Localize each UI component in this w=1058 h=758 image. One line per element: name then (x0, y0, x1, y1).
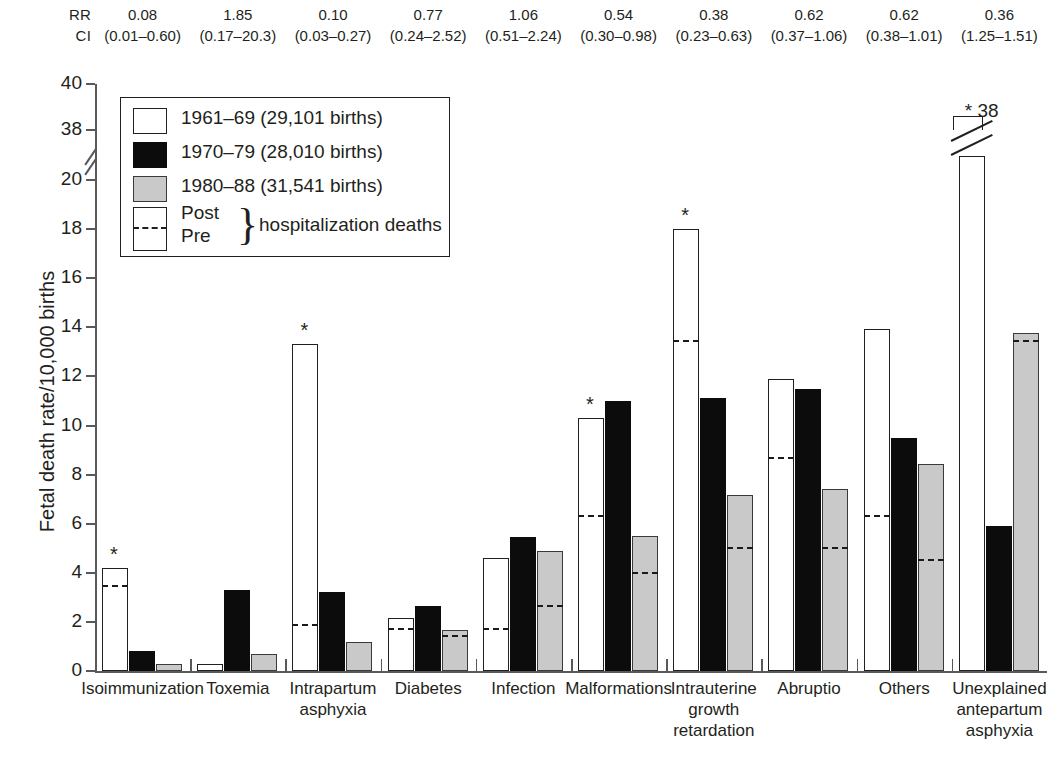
y-axis-line (95, 84, 97, 672)
y-tick-20 (86, 179, 95, 181)
group-separator-1 (190, 659, 192, 673)
bar-intrauterine-growth-retardation-s2 (700, 398, 726, 671)
significance-marker-6: * (681, 205, 689, 225)
bar-malformations-s3 (632, 536, 658, 671)
rr-value-9: 0.36 (939, 6, 1058, 23)
y-tick-4 (86, 572, 95, 574)
bar-toxemia-s1 (197, 664, 223, 671)
x-label-unexplained-antepartum-asphyxia: Unexplainedantepartumasphyxia (924, 678, 1058, 741)
legend-label-1961-69: 1961–69 (29,101 births) (181, 107, 383, 129)
bar-intrapartum-asphyxia-s2 (319, 592, 345, 671)
pre-hospitalization-line-6-s1 (673, 340, 699, 342)
pre-hospitalization-line-8-s3 (918, 559, 944, 561)
legend-label-post: Post (181, 202, 219, 224)
legend-dashed-divider (133, 227, 167, 229)
pre-hospitalization-line-2-s1 (292, 624, 318, 626)
legend-swatch-pre-post (133, 207, 167, 251)
legend-label-pre: Pre (181, 225, 211, 247)
y-tick-18 (86, 228, 95, 230)
y-tick-12 (86, 375, 95, 377)
legend-brace-glyph: } (237, 203, 258, 247)
bar-infection-s3 (537, 551, 563, 671)
bar-toxemia-s3 (251, 654, 277, 671)
legend-box: 1961–69 (29,101 births) 1970–79 (28,010 … (120, 97, 450, 257)
bar-infection-s1 (483, 558, 509, 671)
y-tick-6 (86, 523, 95, 525)
pre-hospitalization-line-7-s3 (822, 547, 848, 549)
bar-isoimmunization-s2 (129, 651, 155, 671)
pre-hospitalization-line-3-s3 (442, 635, 468, 637)
group-separator-9 (952, 659, 954, 673)
pre-hospitalization-line-6-s3 (727, 547, 753, 549)
y-tick-2 (86, 621, 95, 623)
pre-hospitalization-line-9-s3 (1013, 340, 1039, 342)
pre-hospitalization-line-7-s1 (768, 457, 794, 459)
group-separator-8 (857, 659, 859, 673)
group-separator-7 (761, 659, 763, 673)
bar-intrauterine-growth-retardation-s3 (727, 495, 753, 671)
bar-others-s3 (918, 464, 944, 671)
legend-swatch-white (133, 108, 167, 134)
ci-value-9: (1.25–1.51) (939, 27, 1058, 44)
bar-unexplained-antepartum-asphyxia-s1 (959, 156, 985, 671)
ci-row: CI (0.01–0.60)(0.17–20.3)(0.03–0.27)(0.2… (0, 27, 1058, 45)
bar-abruptio-s1 (768, 379, 794, 671)
bar-malformations-s2 (605, 401, 631, 671)
y-tick-38 (86, 129, 95, 131)
bar-toxemia-s2 (224, 590, 250, 671)
bar-unexplained-antepartum-asphyxia-s2 (986, 526, 1012, 671)
bar-break-zigzag-icon (951, 134, 997, 168)
group-separator-6 (666, 659, 668, 673)
legend-swatch-black (133, 142, 167, 168)
group-separator-3 (381, 659, 383, 673)
pre-hospitalization-line-5-s3 (632, 572, 658, 574)
bar-abruptio-s3 (822, 489, 848, 671)
y-tick-14 (86, 326, 95, 328)
bar-unexplained-antepartum-asphyxia-s3 (1013, 333, 1039, 671)
group-separator-2 (285, 659, 287, 673)
y-tick-10 (86, 425, 95, 427)
bar-abruptio-s2 (795, 389, 821, 671)
bar-malformations-s1 (578, 418, 604, 671)
y-tick-8 (86, 474, 95, 476)
pre-hospitalization-line-4-s1 (483, 628, 509, 630)
y-tick-16 (86, 277, 95, 279)
y-tick-label-40: 40 (36, 72, 82, 94)
pre-hospitalization-line-8-s1 (864, 515, 890, 517)
bar-diabetes-s1 (388, 618, 414, 671)
legend-label-hospitalization-deaths: hospitalization deaths (259, 214, 442, 236)
group-separator-5 (571, 659, 573, 673)
significance-marker-5: * (586, 394, 594, 414)
y-axis-title: Fetal death rate/10,000 births (36, 167, 59, 637)
bar-others-s1 (864, 329, 890, 671)
bar-isoimmunization-s1 (102, 568, 128, 671)
pre-hospitalization-line-0-s1 (102, 585, 128, 587)
bar-isoimmunization-s3 (156, 664, 182, 671)
y-tick-label-38: 38 (36, 118, 82, 140)
rr-row: RR 0.081.850.100.771.060.540.380.620.620… (0, 6, 1058, 24)
pre-hospitalization-line-3-s1 (388, 628, 414, 630)
bar-break-cap (953, 116, 983, 130)
bar-infection-s2 (510, 537, 536, 671)
legend-label-1980-88: 1980–88 (31,541 births) (181, 175, 383, 197)
bar-others-s2 (891, 438, 917, 671)
legend-swatch-gray (133, 176, 167, 202)
bar-diabetes-s2 (415, 606, 441, 671)
pre-hospitalization-line-4-s3 (537, 605, 563, 607)
y-tick-0 (86, 670, 95, 672)
pre-hospitalization-line-5-s1 (578, 515, 604, 517)
significance-marker-2: * (300, 320, 308, 340)
bar-intrauterine-growth-retardation-s1 (673, 229, 699, 671)
y-tick-40 (86, 83, 95, 85)
group-separator-4 (476, 659, 478, 673)
bar-intrapartum-asphyxia-s1 (292, 344, 318, 671)
significance-marker-0: * (110, 544, 118, 564)
y-axis-break-icon (84, 144, 106, 170)
legend-label-1970-79: 1970–79 (28,010 births) (181, 141, 383, 163)
fetal-death-rate-bar-chart: RR 0.081.850.100.771.060.540.380.620.620… (0, 0, 1058, 758)
bar-intrapartum-asphyxia-s3 (346, 642, 372, 671)
